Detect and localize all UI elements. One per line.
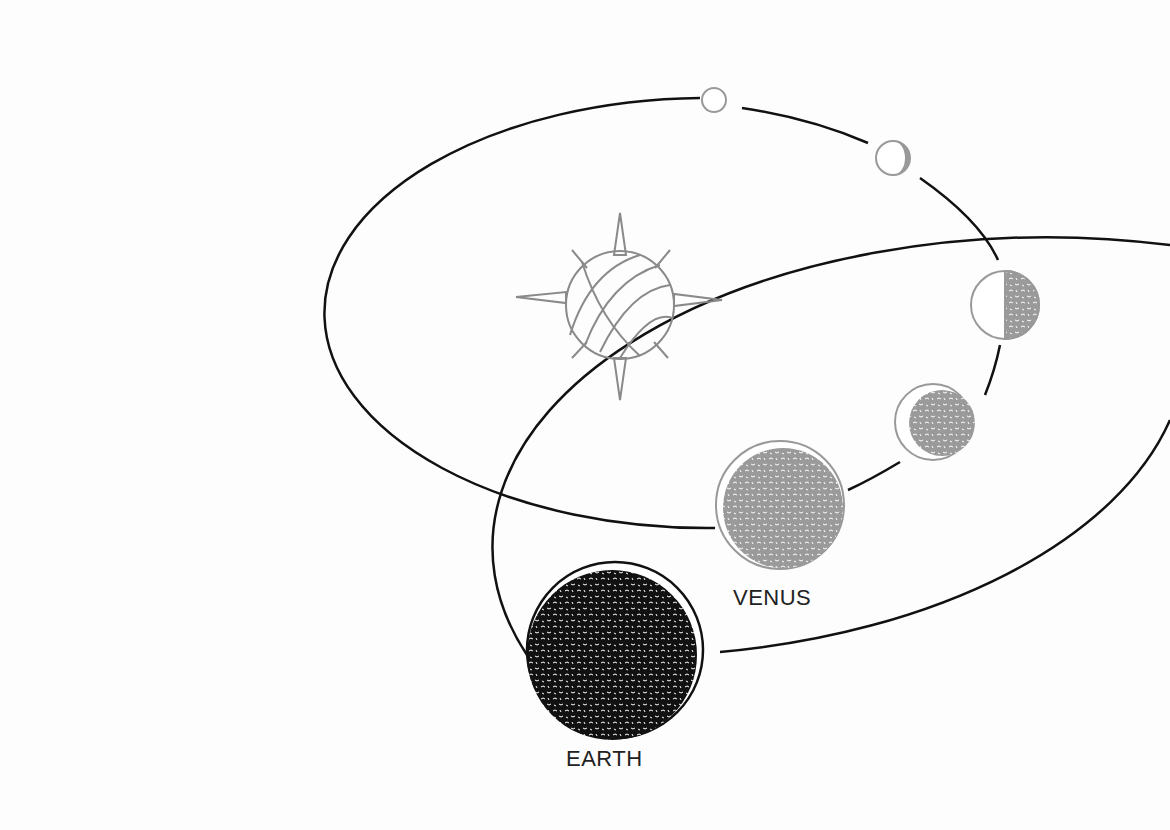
earth-planet [527,562,703,740]
venus-label: VENUS [733,585,811,611]
venus-phases-diagram [0,0,1170,830]
sun-icon [516,213,722,400]
venus-phase-full [702,88,726,112]
venus-phase-half [971,271,1039,339]
venus-phase-crescent [895,384,975,460]
earth-label: EARTH [566,746,643,772]
venus-phase-gibbous [876,141,910,175]
venus-phase-new [716,441,844,569]
